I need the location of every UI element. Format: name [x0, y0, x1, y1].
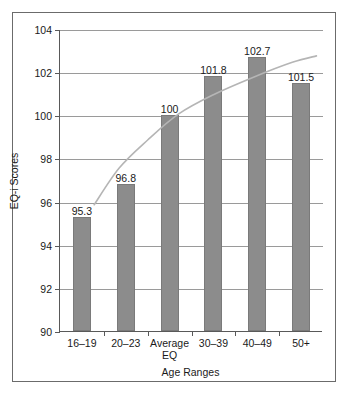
y-axis-title: EQ-i Scores: [8, 153, 20, 210]
y-tick-mark: [55, 73, 60, 74]
y-tick-mark: [55, 159, 60, 160]
x-tick-mark: [104, 331, 105, 336]
x-tick-label: 50+: [292, 338, 310, 350]
bar-value-label: 100: [161, 104, 179, 115]
x-tick-mark: [148, 331, 149, 336]
x-tick-label-line: Average: [150, 338, 189, 350]
y-tick-label: 96: [40, 197, 52, 208]
gridline: [60, 203, 323, 204]
gridline: [60, 30, 323, 31]
bar: [161, 115, 179, 331]
plot-area: 9092949698100102104 95.396.8100101.8102.…: [59, 30, 322, 332]
chart-figure: EQ-i Scores 9092949698100102104 95.396.8…: [0, 0, 348, 400]
x-tick-label-line: 20–23: [111, 338, 140, 350]
y-tick-mark: [55, 203, 60, 204]
bar-value-label: 101.5: [288, 71, 314, 82]
bar-value-label: 96.8: [116, 173, 136, 184]
x-tick-label-line: 40–49: [243, 338, 272, 350]
x-tick-label: AverageEQ: [150, 338, 189, 361]
y-tick-mark: [55, 289, 60, 290]
gridline: [60, 159, 323, 160]
gridline: [60, 73, 323, 74]
y-tick-label: 92: [40, 284, 52, 295]
x-tick-label: 20–23: [111, 338, 140, 350]
x-axis-title: Age Ranges: [59, 366, 322, 378]
x-tick-mark: [279, 331, 280, 336]
y-tick-label: 90: [40, 327, 52, 338]
x-tick-label: 30–39: [199, 338, 228, 350]
bar: [73, 217, 91, 331]
y-tick-label: 100: [34, 111, 52, 122]
bar: [292, 83, 310, 331]
y-tick-mark: [55, 332, 60, 333]
trend-line: [60, 30, 323, 332]
y-tick-label: 104: [34, 25, 52, 36]
y-tick-mark: [55, 30, 60, 31]
y-tick-mark: [55, 246, 60, 247]
bar-value-label: 101.8: [200, 65, 226, 76]
bar-value-label: 95.3: [72, 205, 92, 216]
gridline: [60, 289, 323, 290]
x-tick-label-line: 16–19: [67, 338, 96, 350]
x-tick-label-line: EQ: [150, 350, 189, 362]
x-tick-mark: [192, 331, 193, 336]
bar: [204, 76, 222, 331]
y-tick-label: 102: [34, 68, 52, 79]
x-tick-label-line: 50+: [292, 338, 310, 350]
gridline: [60, 116, 323, 117]
x-tick-mark: [235, 331, 236, 336]
y-tick-label: 98: [40, 154, 52, 165]
gridline: [60, 246, 323, 247]
bar: [248, 57, 266, 331]
x-tick-label-line: 30–39: [199, 338, 228, 350]
y-tick-label: 94: [40, 240, 52, 251]
x-tick-label: 16–19: [67, 338, 96, 350]
bar: [117, 184, 135, 331]
y-tick-mark: [55, 116, 60, 117]
x-tick-label: 40–49: [243, 338, 272, 350]
bar-value-label: 102.7: [244, 46, 270, 57]
